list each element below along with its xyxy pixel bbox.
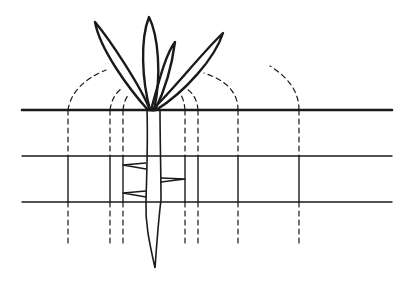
- connector-upper-left: [123, 163, 146, 169]
- connector-lower-left: [123, 191, 146, 197]
- root-connectors: [123, 163, 185, 197]
- plant-root[interactable]: [146, 110, 161, 268]
- arc-right-outer: [204, 73, 238, 110]
- arc-left-inner: [123, 94, 129, 110]
- arc-right-inner: [179, 92, 185, 110]
- arc-far-right: [270, 66, 299, 110]
- diagram-canvas: [0, 0, 413, 287]
- connector-right: [161, 178, 185, 182]
- plant-leaves: [95, 17, 223, 110]
- arc-left-mid: [110, 89, 121, 110]
- leaf-far-left: [95, 22, 150, 110]
- arc-right-mid: [187, 89, 198, 110]
- vertical-lines: [68, 110, 299, 246]
- plant-soil-diagram: [0, 0, 413, 287]
- arc-left-outer: [68, 70, 106, 110]
